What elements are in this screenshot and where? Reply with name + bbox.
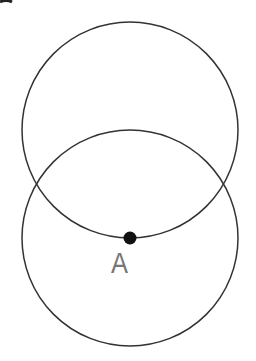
geometry-diagram (0, 0, 256, 361)
point-a-label: A (111, 248, 128, 278)
corner-fragment (0, 1, 12, 3)
point-a-dot (124, 232, 137, 245)
